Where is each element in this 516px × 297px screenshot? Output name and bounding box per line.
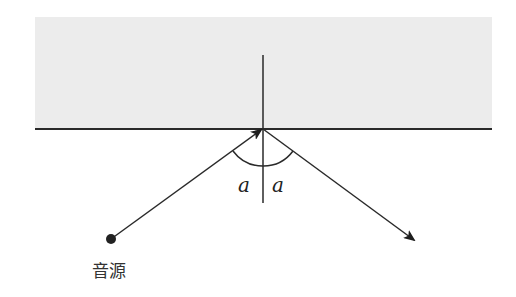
- reflection-diagram: a a 音源: [0, 0, 516, 297]
- sound-source-dot: [106, 234, 116, 244]
- incident-angle-label: a: [238, 173, 250, 197]
- sound-source-label: 音源: [92, 261, 126, 281]
- reflected-angle-arc: [263, 151, 293, 166]
- reflected-angle-label: a: [272, 173, 284, 197]
- incident-angle-arc: [233, 151, 263, 166]
- reflected-ray: [263, 129, 414, 240]
